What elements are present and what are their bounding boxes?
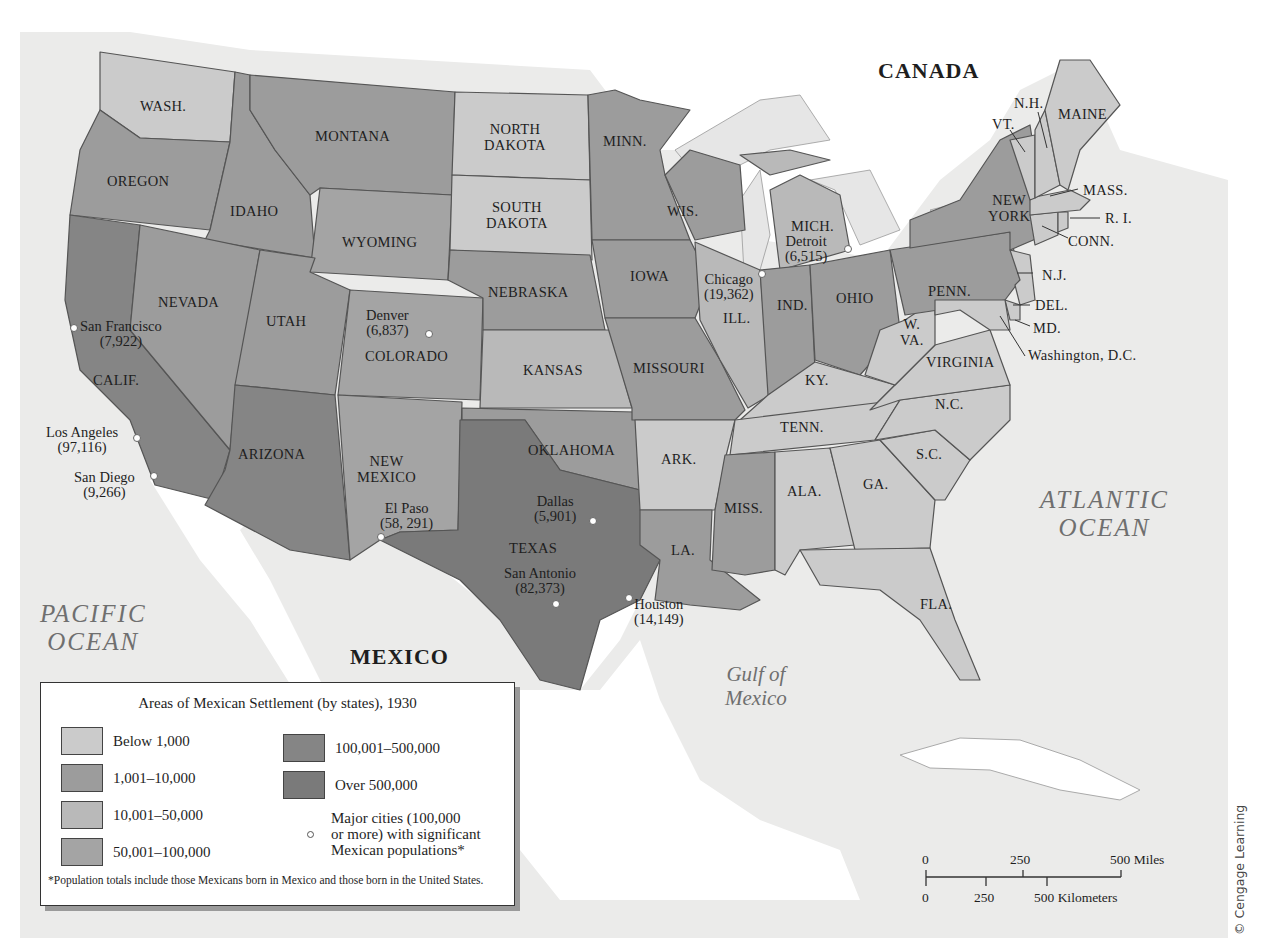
gulf-label: Gulf of Mexico [725, 662, 787, 710]
state-label-wva: W. VA. [900, 316, 924, 348]
state-label-conn: CONN. [1068, 233, 1114, 249]
country-label-canada: CANADA [878, 58, 979, 84]
city-name: Chicago [704, 272, 754, 287]
state-label-la: LA. [671, 542, 695, 558]
north-dakota-line-1: NORTH [484, 121, 546, 137]
state-label-mich: MICH. [791, 218, 834, 234]
legend-item-50001-100000: 50,001–100,000 [61, 838, 211, 866]
state-label-kansas: KANSAS [523, 362, 583, 378]
city-label-el-paso: El Paso (58, 291) [380, 501, 433, 531]
state-label-north-dakota: NORTH DAKOTA [484, 121, 546, 153]
legend-label: 100,001–500,000 [335, 740, 440, 757]
scale-miles-250: 250 [1010, 852, 1030, 868]
scale-km-500: 500 Kilometers [1034, 890, 1118, 906]
state-label-miss: MISS. [724, 500, 763, 516]
cuba-land [900, 738, 1140, 800]
state-label-new-york: NEW YORK [988, 192, 1030, 224]
city-marker-dallas [589, 517, 597, 525]
city-name: San Antonio [504, 566, 576, 581]
scale-bar: 0 250 500 Miles 0 250 500 Kilometers [920, 852, 1180, 912]
state-label-ind: IND. [777, 297, 808, 313]
state-conn [1030, 212, 1058, 245]
south-dakota-line-1: SOUTH [486, 199, 548, 215]
state-label-south-dakota: SOUTH DAKOTA [486, 199, 548, 231]
new-mexico-line-1: NEW [357, 453, 416, 469]
state-md [935, 300, 1010, 330]
legend-item-10001-50000: 10,001–50,000 [61, 801, 203, 829]
city-marker-los-angeles [133, 434, 141, 442]
state-label-colorado: COLORADO [365, 348, 448, 364]
state-fla [800, 548, 980, 680]
gulf-line-2: Mexico [725, 686, 787, 710]
state-label-maine: MAINE [1058, 106, 1107, 122]
scale-km-250: 250 [974, 890, 994, 906]
state-label-wash: WASH. [140, 98, 186, 114]
city-population: (58, 291) [380, 516, 433, 531]
state-label-ky: KY. [805, 372, 829, 388]
state-label-mass: MASS. [1083, 182, 1128, 198]
state-label-vt: VT. [992, 116, 1015, 132]
city-population: (97,116) [46, 440, 118, 455]
state-label-virginia: VIRGINIA [926, 354, 994, 370]
state-label-nc: N.C. [935, 396, 964, 412]
legend-city-key: Major cities (100,000 or more) with sign… [331, 810, 481, 858]
legend-swatch [61, 764, 103, 792]
state-label-sc: S.C. [916, 446, 942, 462]
gulf-line-1: Gulf of [725, 662, 787, 686]
city-label-san-francisco: San Francisco (7,922) [80, 319, 162, 349]
legend-label: 50,001–100,000 [113, 844, 211, 861]
city-population: (9,266) [74, 485, 135, 500]
city-population: (6,515) [785, 249, 827, 264]
city-marker-houston [625, 594, 633, 602]
state-label-fla: FLA. [920, 596, 952, 612]
state-label-ri: R. I. [1105, 210, 1132, 226]
city-name: Denver [366, 308, 409, 323]
state-label-new-mexico: NEW MEXICO [357, 453, 416, 485]
legend-swatch [283, 734, 325, 762]
city-population: (14,149) [634, 612, 684, 627]
state-label-arizona: ARIZONA [238, 446, 305, 462]
state-label-texas: TEXAS [509, 540, 557, 556]
legend-item-1001-10000: 1,001–10,000 [61, 764, 196, 792]
city-marker-san-diego [150, 472, 158, 480]
city-label-san-antonio: San Antonio (82,373) [504, 566, 576, 596]
north-dakota-line-2: DAKOTA [484, 137, 546, 153]
state-label-del: DEL. [1035, 297, 1068, 313]
city-label-dallas: Dallas (5,901) [534, 494, 576, 524]
state-label-nebraska: NEBRASKA [488, 284, 569, 300]
state-label-ala: ALA. [787, 483, 822, 499]
scale-miles-500: 500 Miles [1110, 852, 1164, 868]
state-label-iowa: IOWA [630, 268, 669, 284]
state-label-tenn: TENN. [780, 419, 824, 435]
legend-swatch [61, 838, 103, 866]
city-label-detroit: Detroit (6,515) [785, 234, 827, 264]
city-name: El Paso [380, 501, 433, 516]
state-label-montana: MONTANA [315, 128, 390, 144]
city-marker-san-francisco [70, 324, 78, 332]
legend-item-below-1000: Below 1,000 [61, 727, 190, 755]
state-label-ark: ARK. [661, 451, 696, 467]
city-marker-chicago [758, 270, 766, 278]
copyright-credit: © Cengage Learning [1232, 805, 1247, 935]
state-label-nh: N.H. [1014, 95, 1043, 111]
wva-line-2: VA. [900, 332, 924, 348]
city-population: (19,362) [704, 287, 754, 302]
scale-km-0: 0 [922, 890, 929, 906]
city-key-line-3: Mexican populations* [331, 842, 481, 858]
city-marker-detroit [844, 245, 852, 253]
state-label-calif: CALIF. [93, 372, 139, 388]
state-label-ill: ILL. [723, 310, 750, 326]
city-label-los-angeles: Los Angeles (97,116) [46, 425, 118, 455]
ocean-label-atlantic: ATLANTIC OCEAN [1040, 486, 1169, 542]
city-key-line-1: Major cities (100,000 [331, 810, 481, 826]
pacific-line-2: OCEAN [40, 628, 147, 656]
south-dakota-line-2: DAKOTA [486, 215, 548, 231]
legend-label: 10,001–50,000 [113, 807, 203, 824]
city-marker-san-antonio [552, 600, 560, 608]
legend-label: Over 500,000 [335, 777, 418, 794]
legend-swatch [283, 771, 325, 799]
country-label-mexico: MEXICO [350, 644, 449, 670]
city-name: Houston [634, 597, 684, 612]
new-york-line-1: NEW [988, 192, 1030, 208]
state-label-minn: MINN. [603, 133, 647, 149]
